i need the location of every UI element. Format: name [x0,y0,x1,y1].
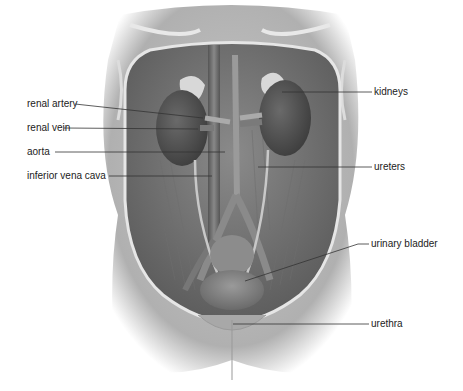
label-aorta: aorta [27,146,50,158]
kidney-right [259,80,311,156]
urinary-system-diagram: renal artery renal vein aorta inferior v… [0,0,463,391]
inferior-vena-cava [208,45,220,245]
label-urinary-bladder: urinary bladder [371,238,438,250]
label-renal-vein: renal vein [27,122,70,134]
label-inferior-vena-cava: inferior vena cava [27,170,106,182]
label-ureters: ureters [374,161,405,173]
anatomy-illustration [0,0,463,391]
label-urethra: urethra [371,318,403,330]
label-renal-artery: renal artery [27,98,78,110]
label-kidneys: kidneys [374,86,408,98]
urinary-bladder [200,270,264,310]
